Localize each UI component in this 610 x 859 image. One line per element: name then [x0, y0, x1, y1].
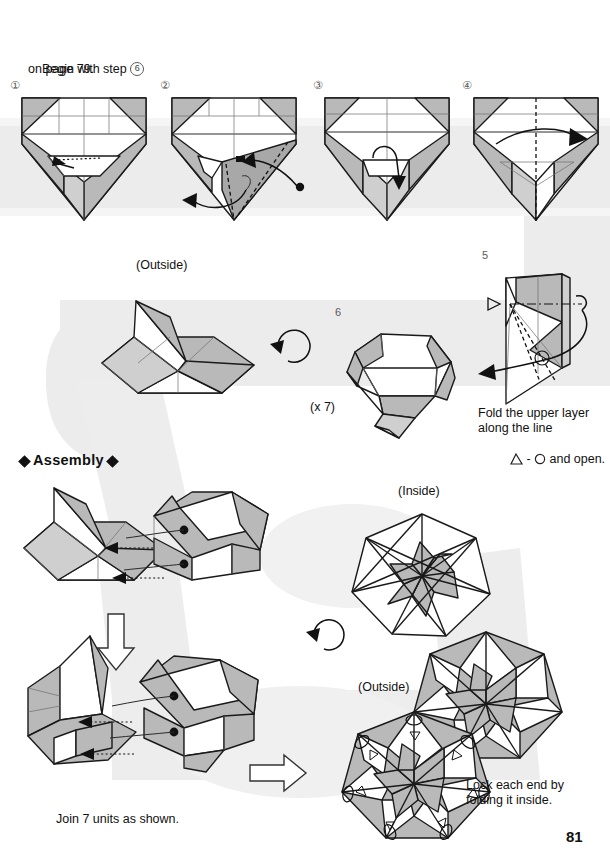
- step-number-2: ②: [160, 79, 170, 92]
- diamond-ornament-left-icon: [18, 455, 31, 468]
- assembly-heading-text: Assembly: [33, 452, 104, 468]
- figure-step-6: [339, 322, 459, 444]
- step-number-6: 6: [335, 306, 341, 318]
- step-number-1: ①: [10, 79, 20, 92]
- step5-caption-line2: along the line: [478, 421, 552, 437]
- turn-over-rotation-arrow: [266, 322, 322, 378]
- outside-label-bottom: (Outside): [358, 680, 409, 696]
- step-number-4: ④: [462, 79, 472, 92]
- circled-step-ref: 6: [130, 62, 144, 76]
- diamond-ornament-right-icon: [106, 455, 119, 468]
- assembly-heading: Assembly: [16, 452, 121, 468]
- step5-caption-line1: Fold the upper layer: [478, 406, 589, 422]
- page-number: 81: [566, 828, 583, 845]
- circle-marker-icon: [534, 453, 546, 465]
- triangle-marker-icon: [510, 453, 523, 465]
- origami-instruction-page: Begin with step 6 on page 79. ① ② ③ ④: [0, 0, 610, 859]
- intro-line-2: on page 79.: [28, 62, 94, 78]
- figure-step-1: [14, 94, 154, 228]
- repeat-count-label: (x 7): [310, 400, 335, 416]
- flip-rotation-arrow-icon: [300, 612, 354, 666]
- lock-caption-line2: folding it inside.: [466, 793, 552, 809]
- right-block-arrow-icon: [248, 752, 310, 798]
- figure-assembly-unit-b: [136, 484, 286, 608]
- figure-unit-outside: [94, 285, 274, 419]
- caption-tail: and open.: [546, 452, 605, 466]
- figure-step-4: [466, 94, 608, 230]
- caption-dash: -: [523, 452, 534, 466]
- step-number-3: ③: [313, 79, 323, 92]
- step-number-5: 5: [482, 249, 488, 261]
- inside-label: (Inside): [398, 484, 440, 500]
- join-units-caption: Join 7 units as shown.: [56, 812, 179, 828]
- figure-step-3: [317, 94, 462, 230]
- lock-caption-line1: Lock each end by: [466, 778, 564, 794]
- figure-step-2: [164, 94, 314, 233]
- step5-caption-line3: - and open.: [478, 436, 605, 483]
- outside-label-row2: (Outside): [136, 258, 187, 274]
- figure-step-5: [470, 264, 600, 408]
